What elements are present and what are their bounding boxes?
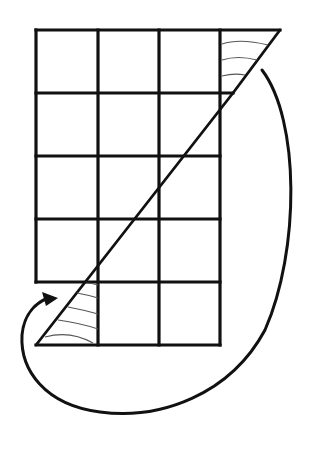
arrow-curve xyxy=(22,70,291,413)
hatch-line xyxy=(68,307,98,314)
diagram-canvas xyxy=(0,0,315,450)
grid-transformation-diagram xyxy=(0,0,315,450)
move-arrow xyxy=(22,70,291,413)
hatch-line xyxy=(77,293,98,298)
hatch-line xyxy=(222,41,268,45)
hatch-line xyxy=(222,58,257,61)
arrowhead-icon xyxy=(42,292,58,306)
hatch-line xyxy=(222,74,245,76)
hatch-line xyxy=(45,335,93,343)
hatch-line xyxy=(58,320,98,329)
triangle-hypotenuse-top xyxy=(233,30,280,93)
cut-triangle xyxy=(45,283,98,343)
